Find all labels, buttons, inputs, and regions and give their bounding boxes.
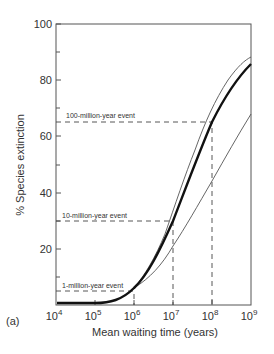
svg-text:108: 108 (202, 308, 219, 322)
svg-text:105: 105 (85, 308, 102, 322)
svg-text:104: 104 (46, 308, 63, 322)
y-axis-ticks (56, 24, 61, 277)
y-tick-labels: 100 80 60 40 20 (34, 18, 52, 255)
y-tick-100: 100 (34, 18, 52, 30)
svg-text:106: 106 (124, 308, 141, 322)
ref-10-million (56, 221, 173, 305)
x-tick-labels: 104 105 106 107 108 109 (46, 308, 258, 322)
x-axis-label: Mean waiting time (years) (92, 326, 218, 338)
y-axis-label: % Species extinction (14, 114, 26, 216)
y-tick-20: 20 (40, 243, 52, 255)
annotation-labels: 1-million-year event 10-million-year eve… (62, 112, 135, 290)
label-1-million: 1-million-year event (62, 282, 123, 290)
label-100-million: 100-million-year event (66, 112, 135, 120)
y-tick-60: 60 (40, 130, 52, 142)
extinction-chart: 100 80 60 40 20 104 105 106 107 108 109 … (0, 0, 274, 354)
svg-text:109: 109 (241, 308, 258, 322)
y-tick-40: 40 (40, 187, 52, 199)
panel-label: (a) (6, 315, 19, 327)
central-estimate-curve (57, 64, 251, 303)
label-10-million: 10-million-year event (62, 212, 127, 220)
y-tick-80: 80 (40, 74, 52, 86)
svg-text:107: 107 (163, 308, 180, 322)
